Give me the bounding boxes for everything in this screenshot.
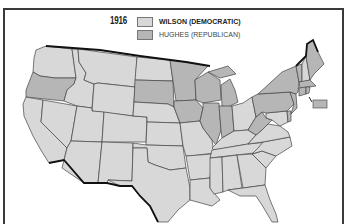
- state-utah: [71, 106, 104, 142]
- state-kansas: [146, 122, 183, 146]
- state-iowa: [174, 100, 203, 123]
- state-mississippi: [210, 157, 223, 194]
- state-new-mexico: [98, 142, 133, 183]
- state-new-york: [258, 66, 299, 94]
- state-arizona: [62, 141, 102, 183]
- state-washington: [33, 46, 76, 78]
- inset-pointer: [309, 97, 312, 102]
- state-connecticut: [299, 87, 306, 96]
- us-election-map: [0, 0, 351, 224]
- state-delaware: [287, 111, 291, 122]
- state-wyoming: [92, 83, 135, 116]
- state-maryland: [266, 111, 288, 126]
- state-florida: [228, 185, 278, 222]
- state-arkansas: [186, 154, 212, 180]
- state-north-dakota: [135, 57, 173, 81]
- inset-rhode-island: [313, 100, 327, 108]
- state-rhode-island: [306, 87, 310, 94]
